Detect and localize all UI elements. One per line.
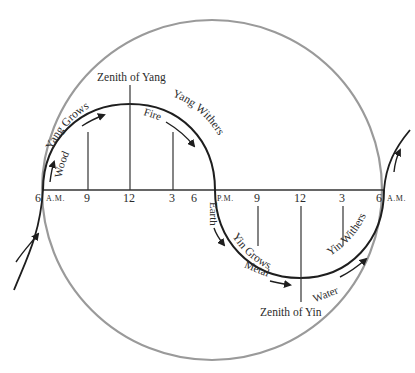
axis-left-hour: 6 (35, 191, 41, 205)
zenith-of-yin-label: Zenith of Yin (260, 306, 322, 318)
wood-text: Wood (52, 149, 71, 179)
axis-yin-3: 3 (339, 191, 345, 205)
axis-yin-12: 12 (294, 191, 306, 205)
earth-label: Earth (208, 202, 220, 226)
axis-yang-12: 12 (123, 191, 135, 205)
metal-arrow (270, 281, 290, 285)
lead-out-curve (384, 130, 410, 190)
lead-in-curve (14, 190, 43, 290)
yang-withers-label: Yang Withers (171, 87, 227, 138)
water-label: Water (311, 283, 340, 304)
axis-right-suffix: A.M. (387, 194, 406, 203)
yin-yang-cycle-diagram: 6 A.M. 9 12 3 6 P.M. 9 12 3 6 A.M. Zenit… (0, 0, 415, 373)
wood-arrow (82, 115, 104, 126)
axis-right-hour: 6 (376, 191, 382, 205)
axis-yang-9: 9 (84, 191, 90, 205)
axis-left-suffix: A.M. (46, 194, 65, 203)
zenith-of-yang-label: Zenith of Yang (97, 71, 166, 84)
axis-yang-3: 3 (169, 191, 175, 205)
axis-mid-hour: 6 (191, 191, 197, 205)
yang-withers-text: Yang Withers (171, 87, 227, 138)
wood-label: Wood (52, 149, 71, 179)
axis-yin-9: 9 (254, 191, 260, 205)
